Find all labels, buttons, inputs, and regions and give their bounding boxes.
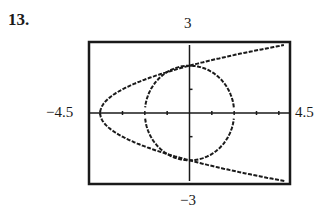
graph	[0, 0, 324, 219]
